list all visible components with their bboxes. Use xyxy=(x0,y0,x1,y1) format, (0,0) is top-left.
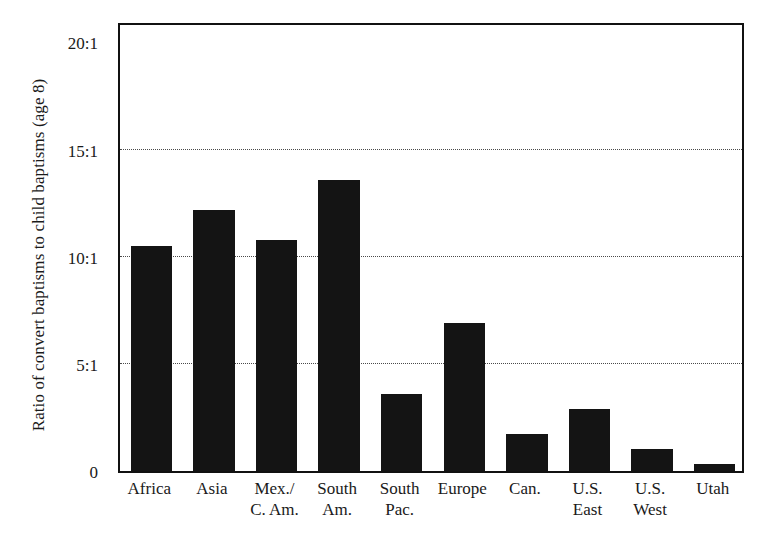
x-tick-label-line1: U.S. xyxy=(635,479,665,498)
bar xyxy=(318,180,359,471)
x-tick-label: Asia xyxy=(196,478,227,499)
x-tick-label-line2: East xyxy=(572,499,602,520)
plot-inner xyxy=(120,25,742,471)
x-axis-tick-labels: AfricaAsiaMex./C. Am.SouthAm.SouthPac.Eu… xyxy=(118,478,744,538)
bar xyxy=(131,246,172,471)
bar xyxy=(444,323,485,471)
x-tick-label-line2: Am. xyxy=(317,499,357,520)
x-tick-label: Mex./C. Am. xyxy=(250,478,299,520)
bar xyxy=(193,210,234,471)
x-tick-label-line1: Utah xyxy=(696,479,729,498)
x-tick-label-line2: West xyxy=(633,499,667,520)
x-tick-label: U.S.East xyxy=(572,478,602,520)
y-axis-tick-labels: 05:110:115:120:1 xyxy=(0,23,108,473)
x-tick-label-line1: Asia xyxy=(196,479,227,498)
bar xyxy=(694,464,735,472)
x-tick-label: Europe xyxy=(438,478,487,499)
bar xyxy=(256,240,297,471)
x-tick-label-line1: Mex./ xyxy=(254,479,294,498)
x-tick-label-line1: South xyxy=(380,479,420,498)
y-tick-label: 10:1 xyxy=(68,249,98,269)
x-tick-label-line2: C. Am. xyxy=(250,499,299,520)
x-tick-label: U.S.West xyxy=(633,478,667,520)
x-tick-label-line1: Africa xyxy=(128,479,171,498)
x-tick-label: SouthPac. xyxy=(380,478,420,520)
bar xyxy=(631,449,672,472)
bar xyxy=(569,409,610,471)
x-tick-label: SouthAm. xyxy=(317,478,357,520)
y-tick-label: 0 xyxy=(90,463,99,483)
plot-area xyxy=(118,23,744,473)
x-tick-label: Can. xyxy=(509,478,541,499)
x-tick-label-line1: Europe xyxy=(438,479,487,498)
x-tick-label-line2: Pac. xyxy=(380,499,420,520)
y-tick-label: 20:1 xyxy=(68,34,98,54)
bar-chart-figure: Ratio of convert baptisms to child bapti… xyxy=(0,0,772,548)
x-tick-label: Utah xyxy=(696,478,729,499)
bar xyxy=(381,394,422,471)
x-tick-label: Africa xyxy=(128,478,171,499)
y-tick-label: 15:1 xyxy=(68,142,98,162)
x-tick-label-line1: U.S. xyxy=(572,479,602,498)
x-tick-label-line1: South xyxy=(317,479,357,498)
y-tick-label: 5:1 xyxy=(76,356,98,376)
x-tick-label-line1: Can. xyxy=(509,479,541,498)
bar xyxy=(506,434,547,472)
gridline-15 xyxy=(120,149,742,150)
